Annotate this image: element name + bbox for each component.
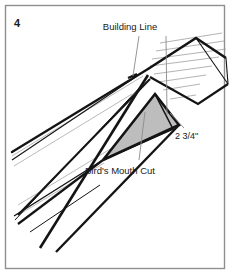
figure-container: 4 Building Line 2 3/4" Bird's Mouth Cut	[0, 0, 230, 274]
label-dimension: 2 3/4"	[175, 131, 198, 141]
label-birds-mouth-cut: Bird's Mouth Cut	[85, 165, 155, 176]
label-building-line: Building Line	[103, 21, 157, 32]
rafter-birds-mouth-diagram: 4 Building Line 2 3/4" Bird's Mouth Cut	[0, 0, 230, 274]
figure-number: 4	[14, 17, 21, 29]
